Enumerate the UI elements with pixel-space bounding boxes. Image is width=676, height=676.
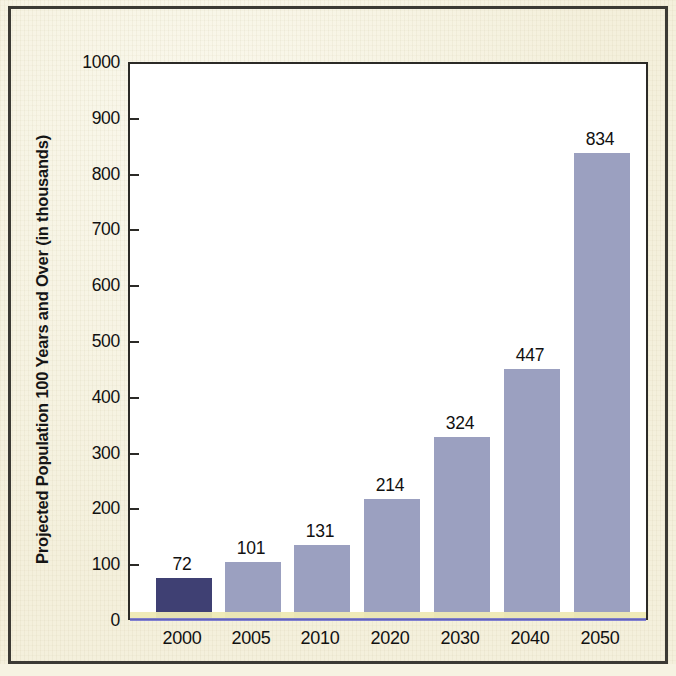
y-tick-label: 800	[56, 163, 120, 184]
bar-value-2020: 214	[342, 475, 438, 496]
y-tick-label: 300	[56, 442, 120, 463]
bar-value-2010: 131	[272, 521, 368, 542]
y-tick-mark	[130, 341, 139, 343]
y-tick-label: 900	[56, 107, 120, 128]
bar-value-2030: 324	[412, 413, 508, 434]
y-tick-label: 400	[56, 386, 120, 407]
y-tick-mark	[130, 174, 139, 176]
bar-2030[interactable]	[434, 437, 490, 618]
bar-2050[interactable]	[574, 153, 630, 618]
bar-value-2050: 834	[552, 129, 648, 150]
y-tick-mark	[130, 508, 139, 510]
y-tick-mark	[130, 453, 139, 455]
bar-2010[interactable]	[294, 545, 350, 618]
y-axis-tick-labels: 1000 900 800 700 600 500 400 300 200 100…	[56, 62, 120, 620]
bar-2000[interactable]	[156, 578, 212, 618]
bar-2005[interactable]	[225, 562, 281, 618]
y-tick-label: 500	[56, 331, 120, 352]
y-tick-mark	[130, 118, 139, 120]
y-tick-label: 600	[56, 275, 120, 296]
bar-value-2040: 447	[482, 345, 578, 366]
y-tick-label: 1000	[56, 52, 120, 73]
page-bottom-margin	[0, 664, 676, 676]
y-tick-mark	[130, 285, 139, 287]
y-tick-label: 0	[56, 610, 120, 631]
chart-page: Projected Population 100 Years and Over …	[0, 0, 676, 676]
y-tick-label: 700	[56, 219, 120, 240]
y-tick-label: 100	[56, 554, 120, 575]
x-tick-label-2050: 2050	[550, 628, 650, 649]
y-tick-mark	[130, 229, 139, 231]
y-tick-label: 200	[56, 498, 120, 519]
y-axis-title: Projected Population 100 Years and Over …	[33, 60, 52, 640]
bar-2020[interactable]	[364, 499, 420, 618]
y-tick-mark	[130, 397, 139, 399]
bar-2040[interactable]	[504, 369, 560, 618]
